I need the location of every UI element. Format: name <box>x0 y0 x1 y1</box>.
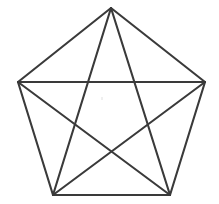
edge-E-A <box>18 8 111 82</box>
pentagon-edges-group <box>18 8 205 195</box>
diagonal-B-D <box>53 82 205 195</box>
vertex-right <box>204 81 206 83</box>
edge-B-C <box>170 82 205 195</box>
vertex-apex-top <box>110 7 112 9</box>
edge-A-B <box>111 8 205 82</box>
center-speck <box>101 97 103 100</box>
pentagon-with-diagonals-figure <box>0 0 219 204</box>
vertex-bottom-right <box>169 194 171 196</box>
figure-canvas <box>0 0 219 204</box>
edge-D-E <box>18 82 53 195</box>
pentagon-diagonals-group <box>18 8 205 195</box>
vertex-bottom-left <box>52 194 54 196</box>
diagonal-C-E <box>18 82 170 195</box>
vertex-left <box>17 81 19 83</box>
diagonal-A-C <box>111 8 170 195</box>
diagonal-A-D <box>53 8 111 195</box>
